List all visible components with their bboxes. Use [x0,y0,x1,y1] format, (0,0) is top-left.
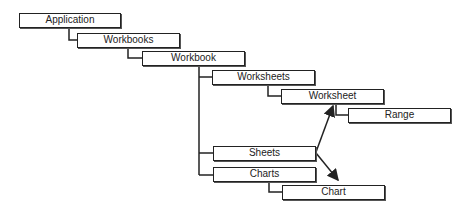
node-sheets: Sheets [213,146,316,161]
node-charts: Charts [213,167,316,182]
node-workbook: Workbook [142,51,245,66]
node-range: Range [348,108,451,123]
node-worksheet: Worksheet [281,89,384,104]
node-workbooks: Workbooks [77,33,180,48]
node-chart: Chart [282,185,385,200]
node-application: Application [19,13,121,28]
node-worksheets: Worksheets [212,70,315,85]
